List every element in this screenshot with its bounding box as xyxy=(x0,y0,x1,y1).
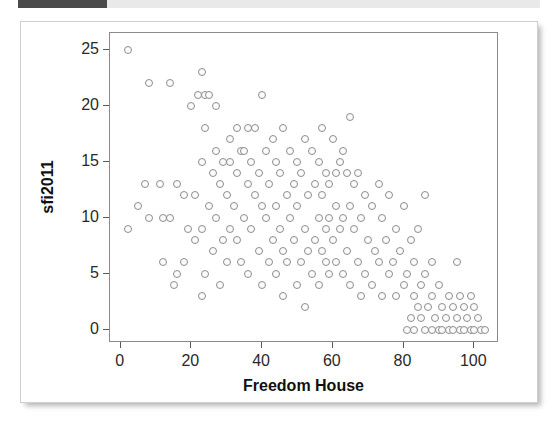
data-point xyxy=(301,225,309,233)
data-point xyxy=(315,158,323,166)
data-point xyxy=(343,247,351,255)
data-point xyxy=(198,68,206,76)
data-point xyxy=(304,191,312,199)
y-axis-title: sfi2011 xyxy=(38,160,56,213)
data-point xyxy=(460,303,468,311)
y-tick-label: 15 xyxy=(57,152,99,170)
data-point xyxy=(346,113,354,121)
data-point xyxy=(198,225,206,233)
data-point xyxy=(134,202,142,210)
data-point xyxy=(191,191,199,199)
data-point xyxy=(346,281,354,289)
y-tick-label: 0 xyxy=(57,320,99,338)
data-point xyxy=(428,258,436,266)
data-point xyxy=(463,314,471,322)
data-point xyxy=(470,303,478,311)
data-point xyxy=(124,225,132,233)
data-point xyxy=(237,258,245,266)
data-point xyxy=(301,135,309,143)
y-tick-label: 20 xyxy=(57,96,99,114)
data-point xyxy=(276,225,284,233)
data-point xyxy=(293,202,301,210)
data-point xyxy=(198,158,206,166)
data-point xyxy=(368,202,376,210)
data-point xyxy=(371,247,379,255)
data-point xyxy=(315,281,323,289)
data-point xyxy=(209,247,217,255)
progress-bar xyxy=(18,0,540,8)
data-point xyxy=(187,102,195,110)
data-point xyxy=(276,169,284,177)
data-point xyxy=(378,292,386,300)
data-point xyxy=(421,270,429,278)
data-point xyxy=(453,314,461,322)
y-tick-label: 10 xyxy=(57,208,99,226)
data-point xyxy=(375,258,383,266)
y-tick-mark xyxy=(103,329,109,330)
data-point xyxy=(414,303,422,311)
data-point xyxy=(407,314,415,322)
data-point xyxy=(357,214,365,222)
data-point xyxy=(255,169,263,177)
data-point xyxy=(272,158,280,166)
x-tick-label: 0 xyxy=(115,352,124,370)
data-point xyxy=(456,292,464,300)
data-point xyxy=(212,147,220,155)
data-point xyxy=(251,191,259,199)
data-point xyxy=(258,281,266,289)
data-point xyxy=(414,225,422,233)
data-point xyxy=(400,281,408,289)
data-point xyxy=(180,191,188,199)
data-point xyxy=(378,214,386,222)
data-point xyxy=(201,124,209,132)
data-point xyxy=(410,292,418,300)
data-point xyxy=(322,258,330,266)
data-point xyxy=(205,202,213,210)
data-point xyxy=(442,314,450,322)
data-point xyxy=(141,180,149,188)
data-point xyxy=(350,180,358,188)
data-point xyxy=(279,124,287,132)
data-point xyxy=(339,147,347,155)
data-point xyxy=(124,46,132,54)
x-tick-label: 40 xyxy=(252,352,270,370)
data-point xyxy=(293,281,301,289)
data-point xyxy=(438,303,446,311)
data-point xyxy=(290,180,298,188)
data-point xyxy=(240,214,248,222)
data-point xyxy=(233,236,241,244)
data-point xyxy=(272,270,280,278)
data-point xyxy=(368,281,376,289)
data-point xyxy=(223,191,231,199)
data-point xyxy=(400,202,408,210)
data-point xyxy=(180,258,188,266)
data-point xyxy=(392,225,400,233)
data-point xyxy=(301,303,309,311)
data-point xyxy=(286,214,294,222)
data-point xyxy=(410,258,418,266)
data-point xyxy=(417,314,425,322)
data-point xyxy=(453,258,461,266)
x-tick-mark xyxy=(403,342,404,348)
data-point xyxy=(431,314,439,322)
data-point xyxy=(166,214,174,222)
data-point xyxy=(293,158,301,166)
data-point xyxy=(308,147,316,155)
data-point xyxy=(332,202,340,210)
data-point xyxy=(325,180,333,188)
data-point xyxy=(216,281,224,289)
data-point xyxy=(364,236,372,244)
data-point xyxy=(304,247,312,255)
y-tick-mark xyxy=(103,217,109,218)
data-point xyxy=(219,236,227,244)
data-point xyxy=(283,258,291,266)
data-point xyxy=(262,147,270,155)
data-point xyxy=(346,202,354,210)
data-point xyxy=(354,258,362,266)
data-point xyxy=(279,292,287,300)
data-point xyxy=(265,258,273,266)
data-point xyxy=(396,247,404,255)
x-tick-label: 100 xyxy=(460,352,487,370)
data-point xyxy=(240,147,248,155)
data-point xyxy=(339,214,347,222)
